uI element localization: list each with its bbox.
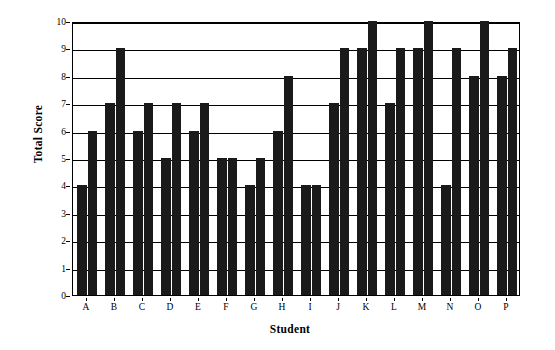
x-tick-mark [338, 298, 339, 301]
y-tick-mark [66, 104, 70, 105]
y-tick-mark [66, 296, 70, 297]
bar [133, 131, 143, 295]
x-tick-label: K [356, 302, 376, 312]
bar [329, 103, 339, 295]
y-tick-mark [66, 269, 70, 270]
x-tick-label: D [160, 302, 180, 312]
bar [189, 131, 199, 295]
x-tick-mark [366, 298, 367, 301]
x-tick-label: E [188, 302, 208, 312]
bar [385, 103, 395, 295]
y-tick-label: 0 [48, 291, 66, 301]
bar [116, 48, 126, 295]
y-tick-label: 3 [48, 209, 66, 219]
x-tick-label: M [412, 302, 432, 312]
y-tick-mark [66, 132, 70, 133]
bar [413, 48, 423, 295]
plot-area [72, 22, 520, 296]
x-tick-label: H [272, 302, 292, 312]
y-tick-mark [66, 22, 70, 23]
y-tick-mark [66, 214, 70, 215]
x-tick-label: L [384, 302, 404, 312]
bars-container [73, 23, 519, 295]
y-tick-label: 8 [48, 72, 66, 82]
bar [144, 103, 154, 295]
bar [273, 131, 283, 295]
y-tick-label: 9 [48, 44, 66, 54]
bar [508, 48, 518, 295]
x-tick-mark [254, 298, 255, 301]
x-tick-label: B [104, 302, 124, 312]
y-axis-title: Total Score [32, 74, 44, 194]
bar [105, 103, 115, 295]
y-axis-tick-labels: 012345678910 [48, 22, 70, 296]
bar [228, 158, 238, 295]
y-tick-label: 7 [48, 99, 66, 109]
x-tick-label: J [328, 302, 348, 312]
bar [301, 185, 311, 295]
x-tick-mark [170, 298, 171, 301]
x-tick-label: A [76, 302, 96, 312]
x-axis-tick-labels: ABCDEFGHIJKLMNOP [72, 298, 520, 318]
x-tick-label: I [300, 302, 320, 312]
x-tick-mark [282, 298, 283, 301]
x-tick-mark [478, 298, 479, 301]
x-tick-mark [422, 298, 423, 301]
bar [480, 21, 490, 295]
x-tick-label: C [132, 302, 152, 312]
bar-chart: Total Score 012345678910 ABCDEFGHIJKLMNO… [0, 0, 555, 350]
x-tick-mark [142, 298, 143, 301]
x-tick-mark [506, 298, 507, 301]
bar [88, 131, 98, 295]
bar [161, 158, 171, 295]
bar [256, 158, 266, 295]
bar [469, 76, 479, 295]
y-tick-label: 2 [48, 236, 66, 246]
bar [284, 76, 294, 295]
bar [441, 185, 451, 295]
bar [452, 48, 462, 295]
bar [357, 48, 367, 295]
y-tick-label: 1 [48, 264, 66, 274]
y-tick-label: 4 [48, 181, 66, 191]
y-tick-label: 10 [48, 17, 66, 27]
x-tick-mark [198, 298, 199, 301]
x-tick-mark [310, 298, 311, 301]
bar [312, 185, 322, 295]
y-tick-label: 5 [48, 154, 66, 164]
bar [368, 21, 378, 295]
bar [245, 185, 255, 295]
bar [217, 158, 227, 295]
x-tick-label: O [468, 302, 488, 312]
bar [200, 103, 210, 295]
y-tick-mark [66, 159, 70, 160]
y-tick-mark [66, 186, 70, 187]
bar [340, 48, 350, 295]
x-tick-label: N [440, 302, 460, 312]
x-tick-mark [114, 298, 115, 301]
x-tick-label: G [244, 302, 264, 312]
x-axis-title: Student [60, 323, 520, 335]
bar [497, 76, 507, 295]
y-tick-mark [66, 49, 70, 50]
bar [172, 103, 182, 295]
y-tick-mark [66, 77, 70, 78]
x-tick-label: F [216, 302, 236, 312]
y-tick-mark [66, 241, 70, 242]
y-tick-label: 6 [48, 127, 66, 137]
bar [396, 48, 406, 295]
bar [77, 185, 87, 295]
x-tick-mark [226, 298, 227, 301]
bar [424, 21, 434, 295]
x-tick-mark [394, 298, 395, 301]
x-tick-mark [450, 298, 451, 301]
x-tick-label: P [496, 302, 516, 312]
x-tick-mark [86, 298, 87, 301]
